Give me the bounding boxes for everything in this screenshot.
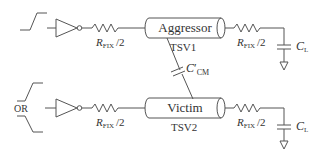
resistor-victim-out-icon — [234, 104, 260, 112]
load-cap-label: CL — [296, 39, 308, 54]
ground-icon — [280, 141, 288, 149]
rising-step-option-icon — [17, 83, 43, 101]
circuit-diagram: RFIX/2 Aggressor TSV1 RFIX/2 CL C′CM OR … — [0, 0, 319, 156]
resistor-label: RFIX/2 — [95, 116, 125, 130]
resistor-label: RFIX/2 — [95, 36, 125, 50]
ground-icon — [280, 62, 288, 70]
load-cap-label: CL — [296, 119, 308, 134]
or-label: OR — [14, 103, 28, 114]
aggressor-label: Aggressor — [158, 20, 212, 35]
resistor-label: RFIX/2 — [236, 36, 266, 50]
coupling-cap-label: C′CM — [186, 61, 209, 77]
tsv1-label: TSV1 — [170, 41, 196, 53]
falling-step-option-icon — [17, 116, 43, 132]
coupling-cap-icon — [171, 67, 183, 72]
tsv2-label: TSV2 — [171, 121, 197, 133]
inverter-aggressor-icon — [56, 19, 77, 37]
resistor-victim-in-icon — [92, 104, 118, 112]
inverter-victim-icon — [56, 99, 77, 117]
victim-label: Victim — [167, 100, 202, 115]
resistor-label: RFIX/2 — [236, 116, 266, 130]
resistor-aggressor-out-icon — [234, 24, 260, 32]
rising-step-input-icon — [20, 13, 47, 30]
resistor-aggressor-in-icon — [92, 24, 118, 32]
